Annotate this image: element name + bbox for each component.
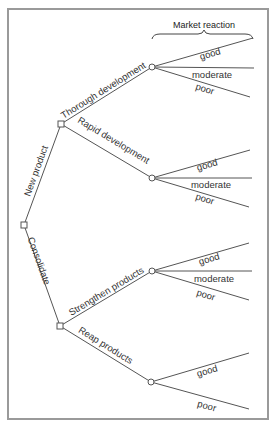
edge-reap-products xyxy=(60,326,151,382)
label-poor: poor xyxy=(194,81,215,97)
label-moderate: moderate xyxy=(194,273,234,284)
root-decision-node-square-icon xyxy=(21,222,27,228)
label-moderate: moderate xyxy=(192,69,232,80)
label-strengthen-products: Strengthen products xyxy=(67,264,146,318)
strengthen-products-chance-node-circle-icon xyxy=(149,268,155,274)
label-poor: poor xyxy=(194,191,215,207)
label-good: good xyxy=(195,362,218,378)
label-poor: poor xyxy=(196,398,217,414)
market-reaction-bracket xyxy=(152,30,253,39)
market-reaction-title: Market reaction xyxy=(173,20,235,30)
label-thorough-development: Thorough development xyxy=(59,59,148,120)
consolidate-decision-node-square-icon xyxy=(57,323,63,329)
label-good: good xyxy=(198,45,221,61)
reap-products-chance-node-circle-icon xyxy=(148,379,154,385)
label-moderate: moderate xyxy=(191,179,231,190)
label-good: good xyxy=(195,156,218,172)
label-consolidate: Consolidate xyxy=(26,235,53,286)
thorough-development-chance-node-circle-icon xyxy=(149,64,155,70)
label-new-product: New product xyxy=(21,144,50,198)
edge-strengthen-products xyxy=(60,271,152,326)
outcome-edge-moderate xyxy=(152,67,254,68)
edge-thorough-development xyxy=(61,67,152,124)
label-good: good xyxy=(197,250,220,266)
new-product-decision-node-square-icon xyxy=(58,121,64,127)
decision-tree-diagram: Market reaction New product Consolidate … xyxy=(0,0,277,424)
label-reap-products: Reap products xyxy=(77,324,135,366)
rapid-development-chance-node-circle-icon xyxy=(149,175,155,181)
